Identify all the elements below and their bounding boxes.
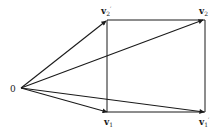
label-v1-prime: v1′ — [198, 116, 210, 128]
label-v1: v1 — [103, 117, 113, 128]
vector-v2-arrow — [21, 20, 203, 88]
label-v2: v2 — [198, 6, 208, 17]
vector-v1-prime-arrow — [21, 88, 204, 112]
vector-diagram: 0 v2′ v2 v1 v1′ — [0, 0, 216, 131]
origin-label: 0 — [10, 84, 16, 94]
rectangle — [107, 20, 205, 112]
vector-v1-arrow — [21, 88, 107, 112]
vector-v2-prime-arrow — [21, 21, 106, 88]
label-v2-prime: v2′ — [100, 5, 112, 17]
